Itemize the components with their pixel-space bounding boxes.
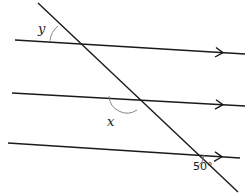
angle-label-x: x [107, 115, 114, 128]
parallel-line-1 [15, 40, 245, 54]
parallel-line-3 [8, 143, 240, 158]
angle-arc-y [50, 26, 58, 41]
angle-label-50: 50° [193, 161, 213, 172]
angle-label-y: y [38, 22, 45, 35]
parallel-line-2 [12, 93, 245, 106]
